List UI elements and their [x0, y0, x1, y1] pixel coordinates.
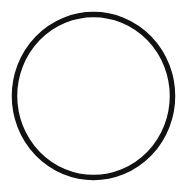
background [0, 0, 188, 193]
canvas [0, 0, 188, 193]
